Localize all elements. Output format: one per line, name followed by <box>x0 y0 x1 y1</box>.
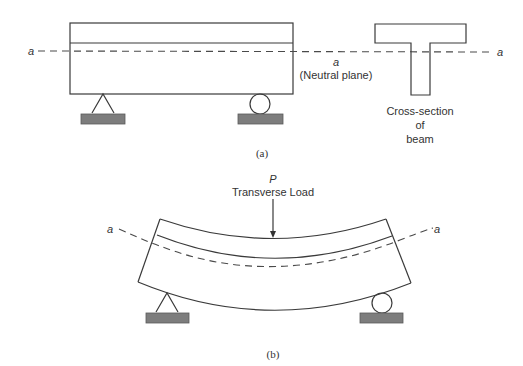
neutral-plane-symbol: a <box>333 56 339 68</box>
t-cross-section-icon <box>375 24 466 95</box>
axis-label-right-a: a <box>497 46 503 58</box>
figure-b: P Transverse Load a a (b) <box>107 173 440 361</box>
neutral-plane-curve <box>119 228 433 267</box>
load-label: Transverse Load <box>232 186 314 198</box>
cross-section-label-1: Cross-section <box>386 105 453 117</box>
straight-beam <box>70 23 293 94</box>
load-symbol-p: P <box>269 173 277 185</box>
figure-a: a a a (Neutral plane) Cross-section of b… <box>28 23 503 160</box>
beam-bending-diagram: a a a (Neutral plane) Cross-section of b… <box>0 0 523 366</box>
beam-right-edge <box>386 219 411 283</box>
neutral-plane-label: (Neutral plane) <box>300 69 373 81</box>
roller-support-icon <box>238 94 283 124</box>
beam-bottom-edge <box>138 282 411 310</box>
axis-label-right-a: a <box>434 223 440 235</box>
beam-left-edge <box>138 219 160 282</box>
caption-b: (b) <box>267 348 280 361</box>
cross-section-label-2: of <box>415 119 425 131</box>
axis-label-left-a: a <box>28 45 34 57</box>
cross-section-label-3: beam <box>406 133 434 145</box>
caption-a: (a) <box>256 147 269 160</box>
pin-support-icon <box>81 94 125 124</box>
load-arrow-icon <box>270 199 276 238</box>
neutral-plane-line <box>38 51 490 52</box>
axis-label-left-a: a <box>107 223 113 235</box>
